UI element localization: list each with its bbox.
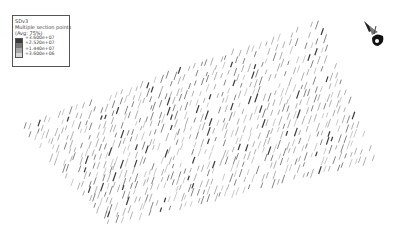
section-point-mark (171, 115, 173, 120)
section-point-mark (183, 177, 185, 183)
section-point-mark (291, 33, 293, 38)
section-point-mark (350, 131, 353, 139)
section-point-mark (209, 152, 212, 159)
section-point-mark (190, 168, 192, 173)
section-point-mark (275, 74, 277, 79)
section-point-mark (250, 127, 252, 132)
section-point-mark (246, 144, 248, 151)
section-point-mark (209, 118, 212, 126)
section-point-mark (154, 129, 156, 134)
section-point-mark (167, 107, 170, 115)
section-point-mark (222, 92, 224, 96)
section-point-mark (265, 70, 267, 75)
section-point-mark (169, 206, 170, 210)
section-point-mark (125, 170, 127, 177)
section-point-mark (201, 196, 204, 204)
section-point-mark (369, 145, 371, 151)
section-point-mark (159, 93, 161, 99)
section-point-mark (125, 114, 127, 120)
section-point-mark (224, 188, 227, 196)
section-point-mark (271, 110, 273, 116)
section-point-mark (363, 131, 365, 137)
section-point-mark (272, 179, 275, 188)
section-point-mark (196, 105, 199, 113)
section-point-mark (209, 94, 211, 99)
section-point-mark (151, 202, 154, 210)
section-point-mark (271, 155, 273, 161)
section-point-mark (130, 137, 132, 142)
section-point-mark (280, 158, 283, 165)
section-point-mark (182, 193, 185, 201)
section-point-mark (207, 170, 209, 177)
section-point-mark (189, 83, 191, 89)
section-point-mark (101, 183, 104, 191)
section-point-mark (151, 112, 154, 120)
section-point-mark (257, 115, 259, 120)
section-point-mark (326, 137, 329, 145)
section-point-mark (41, 125, 43, 131)
section-point-mark (321, 28, 323, 35)
section-point-mark (233, 80, 235, 86)
section-point-mark (189, 134, 190, 138)
section-point-mark (320, 139, 322, 145)
section-point-mark (201, 165, 203, 172)
section-point-mark (321, 66, 323, 71)
section-point-mark (184, 169, 186, 174)
section-point-mark (258, 133, 260, 139)
section-point-mark (303, 173, 305, 178)
section-point-mark (224, 130, 227, 138)
section-point-mark (340, 97, 342, 103)
section-point-mark (229, 112, 232, 121)
section-point-mark (201, 114, 204, 122)
section-point-mark (293, 67, 295, 74)
section-point-mark (193, 157, 195, 164)
section-point-mark (200, 91, 202, 96)
section-point-mark (214, 84, 216, 89)
section-point-mark (357, 121, 359, 128)
section-point-mark (351, 141, 353, 146)
section-point-mark (244, 154, 246, 159)
section-point-mark (268, 93, 271, 102)
section-point-mark (248, 96, 251, 104)
section-point-mark (174, 72, 177, 80)
section-point-mark (287, 99, 289, 104)
section-point-mark (314, 114, 317, 121)
section-point-mark (125, 95, 128, 103)
section-point-mark (146, 146, 149, 154)
section-point-mark (325, 45, 327, 52)
section-point-mark (289, 77, 292, 86)
section-point-mark (358, 156, 360, 163)
section-point-mark (220, 158, 223, 165)
section-point-mark (109, 148, 112, 156)
section-point-mark (99, 124, 101, 129)
section-point-mark (48, 139, 50, 144)
section-point-mark (184, 195, 186, 200)
section-point-mark (106, 152, 108, 159)
section-point-mark (122, 185, 124, 190)
section-point-mark (287, 142, 290, 150)
section-point-mark (225, 105, 227, 112)
section-point-mark (190, 201, 192, 206)
section-point-mark (339, 152, 342, 160)
section-point-mark (120, 160, 123, 169)
section-point-mark (296, 103, 298, 108)
section-point-mark (243, 126, 245, 133)
section-point-mark (262, 147, 264, 153)
section-point-mark (262, 62, 264, 66)
section-point-mark (341, 162, 343, 167)
section-point-mark (84, 167, 86, 172)
section-point-mark (121, 122, 123, 128)
section-point-mark (176, 186, 178, 192)
section-point-mark (317, 56, 320, 64)
section-point-mark (303, 55, 306, 63)
section-point-mark (149, 194, 152, 202)
section-point-mark (139, 197, 141, 202)
section-point-mark (110, 166, 112, 173)
section-point-mark (89, 123, 92, 130)
section-point-mark (277, 140, 280, 149)
section-point-mark (303, 162, 305, 166)
section-point-mark (205, 149, 207, 154)
section-point-mark (283, 148, 286, 156)
section-point-mark (203, 190, 205, 195)
section-point-mark (335, 63, 337, 68)
